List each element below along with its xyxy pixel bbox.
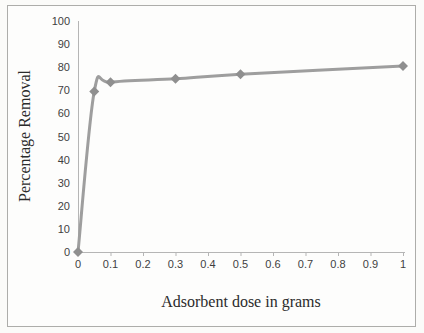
x-tick-label: 0.3 bbox=[168, 258, 183, 270]
chart-frame: 00.10.20.30.40.50.60.70.80.9101020304050… bbox=[7, 5, 416, 327]
y-axis-title: Percentage Removal bbox=[16, 70, 34, 202]
line-chart: 00.10.20.30.40.50.60.70.80.9101020304050… bbox=[8, 6, 415, 326]
y-tick-label: 60 bbox=[58, 107, 70, 119]
series-line bbox=[78, 66, 403, 252]
y-tick-label: 70 bbox=[58, 84, 70, 96]
y-tick-label: 30 bbox=[58, 177, 70, 189]
x-tick-label: 1 bbox=[400, 258, 406, 270]
x-tick-label: 0.6 bbox=[265, 258, 280, 270]
y-tick-label: 90 bbox=[58, 38, 70, 50]
data-point-marker bbox=[398, 61, 408, 71]
y-tick-label: 80 bbox=[58, 61, 70, 73]
x-tick-label: 0.2 bbox=[135, 258, 150, 270]
x-tick-label: 0 bbox=[75, 258, 81, 270]
x-tick-label: 0.8 bbox=[330, 258, 345, 270]
data-point-marker bbox=[106, 77, 116, 87]
y-tick-label: 40 bbox=[58, 154, 70, 166]
y-tick-label: 20 bbox=[58, 200, 70, 212]
x-tick-label: 0.7 bbox=[298, 258, 313, 270]
x-tick-label: 0.1 bbox=[103, 258, 118, 270]
y-tick-label: 100 bbox=[52, 15, 70, 27]
data-point-marker bbox=[73, 247, 83, 257]
y-tick-label: 10 bbox=[58, 223, 70, 235]
data-point-marker bbox=[236, 69, 246, 79]
y-tick-label: 0 bbox=[64, 246, 70, 258]
x-tick-label: 0.9 bbox=[363, 258, 378, 270]
x-tick-label: 0.4 bbox=[200, 258, 215, 270]
x-axis-title: Adsorbent dose in grams bbox=[78, 293, 404, 311]
data-point-marker bbox=[171, 74, 181, 84]
y-tick-label: 50 bbox=[58, 131, 70, 143]
x-tick-label: 0.5 bbox=[233, 258, 248, 270]
scanned-chart-page: 00.10.20.30.40.50.60.70.80.9101020304050… bbox=[0, 0, 424, 333]
data-point-marker bbox=[89, 86, 99, 96]
